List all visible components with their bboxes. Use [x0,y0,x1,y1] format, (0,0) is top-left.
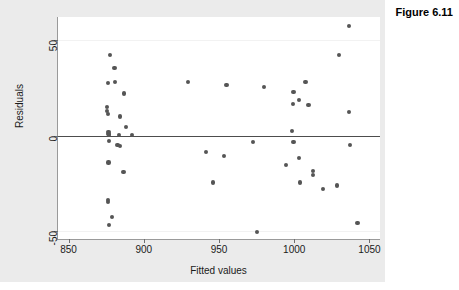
data-point [306,103,310,107]
data-point [106,81,110,85]
data-point [211,180,215,184]
y-tick-label: 0 [49,136,59,142]
x-tick-mark [369,239,370,243]
data-point [347,110,351,114]
data-point [122,91,126,95]
data-point [107,139,111,143]
data-point [118,144,122,148]
gridline-y [58,231,380,232]
data-point [337,53,341,57]
data-point [262,85,266,89]
x-tick-label: 1050 [358,245,380,255]
data-point [347,24,351,28]
data-point [224,83,228,87]
y-tick-label: 50 [49,40,59,51]
x-tick-mark [219,239,220,243]
x-tick-label: 900 [135,245,152,255]
x-tick-mark [144,239,145,243]
data-point [204,150,208,154]
data-point [297,156,301,160]
x-tick-label: 850 [60,245,77,255]
data-point [124,125,128,129]
data-point [291,102,295,106]
data-point [297,98,301,102]
data-point [108,53,112,57]
data-point [311,173,315,177]
data-point [110,215,114,219]
data-point [290,129,294,133]
data-point [186,80,190,84]
data-point [106,160,110,164]
data-point [117,133,121,137]
data-point [335,183,339,187]
data-point [130,133,134,137]
data-point [291,90,295,94]
plot-area: 500-50 85090095010001050 [57,17,380,240]
data-point [106,112,110,116]
y-axis-title: Residuals [14,84,25,128]
data-point [107,223,111,227]
data-point [112,66,116,70]
data-point [118,114,122,118]
data-point [284,163,288,167]
data-point [113,80,117,84]
x-tick-label: 950 [211,245,228,255]
data-point [222,154,226,158]
figure-title: Figure 6.11 [396,6,453,18]
data-point [107,133,111,137]
x-tick-mark [69,239,70,243]
data-point [298,180,302,184]
data-point [121,170,125,174]
x-axis-title: Fitted values [57,265,380,276]
data-point [106,200,110,204]
gridline-y [58,40,380,41]
data-point [321,187,325,191]
x-tick-mark [294,239,295,243]
x-tick-label: 1000 [283,245,305,255]
data-point [348,143,352,147]
data-point [355,221,359,225]
data-point [303,80,307,84]
y-tick-label: -50 [49,231,59,245]
data-point [291,140,295,144]
data-point [255,230,259,234]
graph-canvas: 500-50 85090095010001050 Residuals Fitte… [0,0,385,282]
figure-container: 500-50 85090095010001050 Residuals Fitte… [0,0,459,290]
data-point [251,140,255,144]
